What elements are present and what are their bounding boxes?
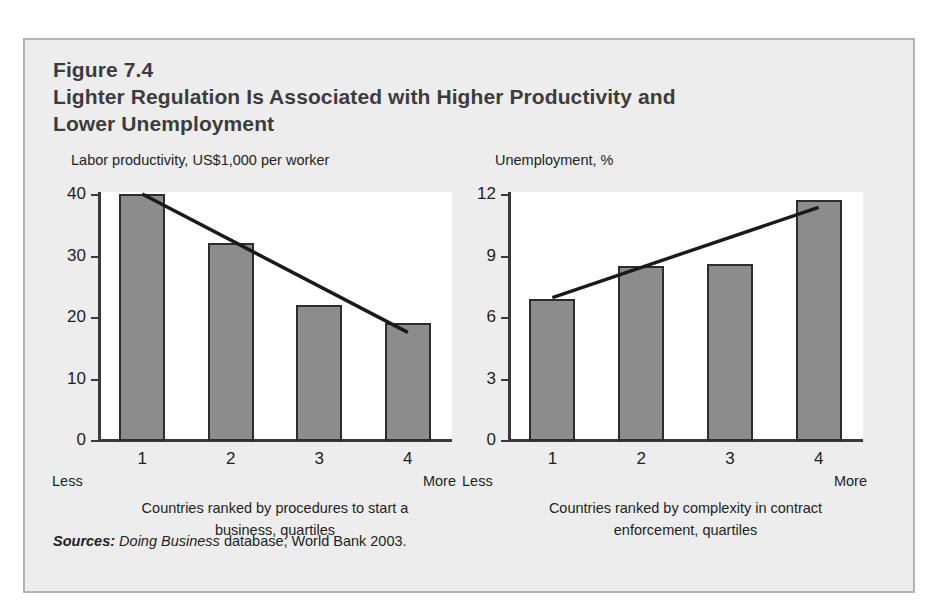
figure-number: Figure 7.4 [53, 56, 853, 83]
source-prefix: Sources: [53, 533, 115, 549]
y-tick-label-left: 30 [67, 246, 86, 266]
x-tick-label-left: 4 [403, 449, 412, 469]
chart-subtitle-right: Unemployment, % [495, 152, 613, 168]
x-tick-label-left: 1 [138, 449, 147, 469]
y-tick-right [501, 440, 508, 442]
bar-right-q2 [618, 266, 664, 441]
y-tick-label-right: 12 [477, 184, 496, 204]
y-tick-left [91, 256, 98, 258]
bar-left-q1 [119, 194, 165, 441]
y-tick-right [501, 317, 508, 319]
x-tick-label-right: 2 [636, 449, 645, 469]
source-database-name: Doing Business [119, 533, 220, 549]
x-tick-label-right: 3 [725, 449, 734, 469]
y-tick-left [91, 317, 98, 319]
figure-heading: Figure 7.4 Lighter Regulation Is Associa… [53, 56, 853, 137]
y-tick-label-right: 6 [487, 307, 496, 327]
axis-end-label-more-left: More [423, 473, 456, 489]
bar-left-q3 [296, 305, 342, 441]
figure-title: Lighter Regulation Is Associated with Hi… [53, 83, 743, 137]
y-tick-label-left: 20 [67, 307, 86, 327]
bar-left-q4 [385, 323, 431, 441]
plot-area-right: 0369121234LessMoreCountries ranked by co… [508, 192, 863, 442]
y-tick-label-left: 40 [67, 184, 86, 204]
y-tick-left [91, 379, 98, 381]
y-tick-left [91, 440, 98, 442]
bar-right-q1 [529, 299, 575, 441]
x-tick-label-left: 3 [315, 449, 324, 469]
x-tick-label-right: 4 [814, 449, 823, 469]
axis-end-label-less-left: Less [52, 473, 83, 489]
y-axis-right [508, 192, 511, 442]
x-tick-label-right: 1 [548, 449, 557, 469]
y-tick-label-left: 0 [77, 430, 86, 450]
y-tick-label-right: 9 [487, 246, 496, 266]
plot-area-left: 0102030401234LessMoreCountries ranked by… [98, 192, 452, 442]
axis-end-label-more-right: More [834, 473, 867, 489]
y-axis-left [98, 192, 101, 442]
y-tick-right [501, 379, 508, 381]
bar-right-q4 [796, 200, 842, 441]
chart-subtitle-left: Labor productivity, US$1,000 per worker [71, 152, 329, 168]
y-tick-right [501, 256, 508, 258]
bar-left-q2 [208, 243, 254, 441]
y-tick-right [501, 194, 508, 196]
y-tick-label-right: 0 [487, 430, 496, 450]
source-note: Sources: Doing Business database; World … [53, 533, 407, 549]
x-tick-label-left: 2 [226, 449, 235, 469]
axis-end-label-less-right: Less [462, 473, 493, 489]
figure-container: Figure 7.4 Lighter Regulation Is Associa… [23, 38, 915, 593]
bar-right-q3 [707, 264, 753, 441]
y-tick-label-right: 3 [487, 369, 496, 389]
y-tick-label-left: 10 [67, 369, 86, 389]
source-rest: database; World Bank 2003. [224, 533, 407, 549]
y-tick-left [91, 194, 98, 196]
axis-caption-right: Countries ranked by complexity in contra… [521, 497, 851, 541]
